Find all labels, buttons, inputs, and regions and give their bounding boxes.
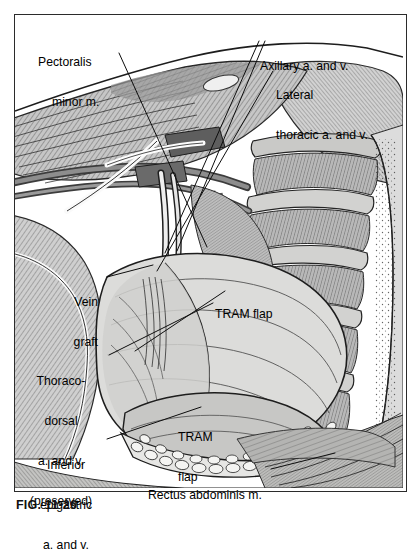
label-line: TRAM [178,431,213,444]
label-line: Rectus abdominis m. [148,489,262,502]
label-line: Pectoralis [38,56,99,69]
label-line: minor m. [52,96,99,109]
label-line: a. and v. [30,539,102,552]
label-line: dorsal [20,415,102,428]
label-line: Vein [36,296,98,309]
label-rectus-abdominis: Rectus abdominis m. [148,462,262,529]
label-line: Thoraco- [20,375,102,388]
label-line: Lateral [276,89,368,102]
label-line: Inferior [30,459,102,472]
label-line: thoracic a. and v. [276,129,368,142]
label-tram-flap-upper: TRAM flap [215,281,273,348]
label-line: TRAM flap [215,308,273,321]
label-lateral-thoracic-vessels: Lateral thoracic a. and v. [276,62,368,169]
label-pectoralis-minor: Pectoralis minor m. [38,29,99,136]
label-inferior-epigastric-vessels: Inferior epigastric a. and v. [30,432,102,553]
figure-caption: FIG. 11-26 [16,498,77,512]
